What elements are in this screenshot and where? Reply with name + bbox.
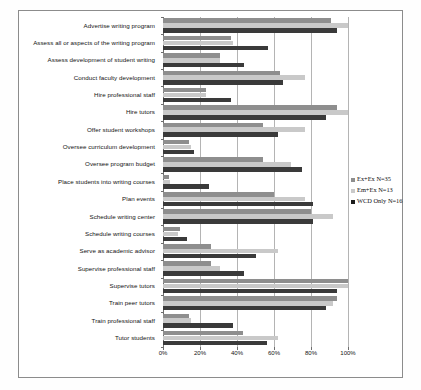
legend-label: Em+Ex N=13 <box>357 187 393 193</box>
bar-1 <box>163 301 333 306</box>
chart-row: Plan events <box>19 191 402 208</box>
bar-1 <box>163 23 348 28</box>
bar-group <box>163 18 348 34</box>
bar-group <box>163 191 348 207</box>
bar-2 <box>163 80 283 85</box>
bar-0 <box>163 279 348 284</box>
bar-0 <box>163 123 263 128</box>
chart-frame: Advertise writing programAssess all or a… <box>18 10 403 378</box>
bar-1 <box>163 162 291 167</box>
legend-label: WCD Only N=16 <box>357 198 403 204</box>
category-label: Serve as academic advisor <box>19 243 159 260</box>
category-label: Schedule writing center <box>19 208 159 225</box>
chart-row: Schedule writing courses <box>19 225 402 242</box>
bar-group <box>163 174 348 190</box>
chart-row: Supervise professional staff <box>19 260 402 277</box>
bar-group <box>163 35 348 51</box>
bar-0 <box>163 105 337 110</box>
bar-group <box>163 52 348 68</box>
bar-2 <box>163 28 337 33</box>
bar-0 <box>163 18 331 23</box>
x-tick-label: 20% <box>194 350 206 356</box>
chart-row: Train professional staff <box>19 312 402 329</box>
chart-row: Conduct faculty development <box>19 69 402 86</box>
legend-item[interactable]: Em+Ex N=13 <box>351 185 421 196</box>
bar-0 <box>163 157 263 162</box>
x-tick-label: 40% <box>231 350 243 356</box>
bar-1 <box>163 145 191 150</box>
bar-2 <box>163 115 326 120</box>
bar-0 <box>163 331 243 336</box>
x-tick-label: 100% <box>340 350 355 356</box>
bar-1 <box>163 110 348 115</box>
bar-0 <box>163 140 189 145</box>
category-label: Assess all or aspects of the writing pro… <box>19 34 159 51</box>
bar-1 <box>163 284 348 289</box>
bar-1 <box>163 249 278 254</box>
bar-rows: Advertise writing programAssess all or a… <box>19 17 402 347</box>
bar-group <box>163 261 348 277</box>
category-label: Hire professional staff <box>19 86 159 103</box>
bar-1 <box>163 75 305 80</box>
chart-row: Oversee curriculum development <box>19 139 402 156</box>
chart-legend: Ex+Ex N=35Em+Ex N=13WCD Only N=16 <box>351 174 421 207</box>
category-label: Advertise writing program <box>19 17 159 34</box>
chart-row: Hire professional staff <box>19 86 402 103</box>
chart-row: Assess all or aspects of the writing pro… <box>19 34 402 51</box>
bar-2 <box>163 341 267 346</box>
chart-row: Hire tutors <box>19 104 402 121</box>
chart-row: Supervise tutors <box>19 277 402 294</box>
bar-1 <box>163 58 220 63</box>
chart-row: Tutor students <box>19 329 402 346</box>
figure-canvas: Advertise writing programAssess all or a… <box>0 0 421 390</box>
bar-1 <box>163 266 220 271</box>
legend-swatch-wcd-only-icon <box>351 200 355 204</box>
bar-group <box>163 243 348 259</box>
category-label: Oversee program budget <box>19 156 159 173</box>
bar-group <box>163 209 348 225</box>
bar-0 <box>163 53 220 58</box>
bar-2 <box>163 306 326 311</box>
bar-2 <box>163 202 313 207</box>
bar-0 <box>163 175 169 180</box>
bar-2 <box>163 46 268 51</box>
legend-item[interactable]: Ex+Ex N=35 <box>351 174 421 185</box>
bar-2 <box>163 289 337 294</box>
category-label: Schedule writing courses <box>19 225 159 242</box>
chart-row: Schedule writing center <box>19 208 402 225</box>
bar-0 <box>163 296 337 301</box>
bar-1 <box>163 318 191 323</box>
bar-0 <box>163 88 206 93</box>
bar-2 <box>163 254 256 259</box>
legend-swatch-ex-ex-icon <box>351 178 355 182</box>
chart-row: Serve as academic advisor <box>19 243 402 260</box>
bar-0 <box>163 261 211 266</box>
chart-row: Place students into writing courses <box>19 173 402 190</box>
plot-area: Advertise writing programAssess all or a… <box>19 11 402 377</box>
bar-2 <box>163 63 244 68</box>
bar-group <box>163 70 348 86</box>
category-label: Plan events <box>19 191 159 208</box>
bar-1 <box>163 336 278 341</box>
bar-1 <box>163 127 305 132</box>
bar-group <box>163 87 348 103</box>
bar-group <box>163 313 348 329</box>
chart-row: Oversee program budget <box>19 156 402 173</box>
bar-group <box>163 122 348 138</box>
x-axis: 0%20%40%60%80%100% <box>163 347 348 361</box>
bar-group <box>163 139 348 155</box>
bar-2 <box>163 150 194 155</box>
category-label: Train peer tutors <box>19 295 159 312</box>
bar-0 <box>163 71 280 76</box>
category-label: Offer student workshops <box>19 121 159 138</box>
bar-1 <box>163 41 233 46</box>
bar-0 <box>163 244 211 249</box>
legend-item[interactable]: WCD Only N=16 <box>351 196 421 207</box>
bar-2 <box>163 219 313 224</box>
bar-group <box>163 330 348 346</box>
bar-group <box>163 156 348 172</box>
bar-2 <box>163 237 187 242</box>
legend-swatch-em-ex-icon <box>351 189 355 193</box>
category-label: Hire tutors <box>19 104 159 121</box>
category-label: Tutor students <box>19 329 159 346</box>
